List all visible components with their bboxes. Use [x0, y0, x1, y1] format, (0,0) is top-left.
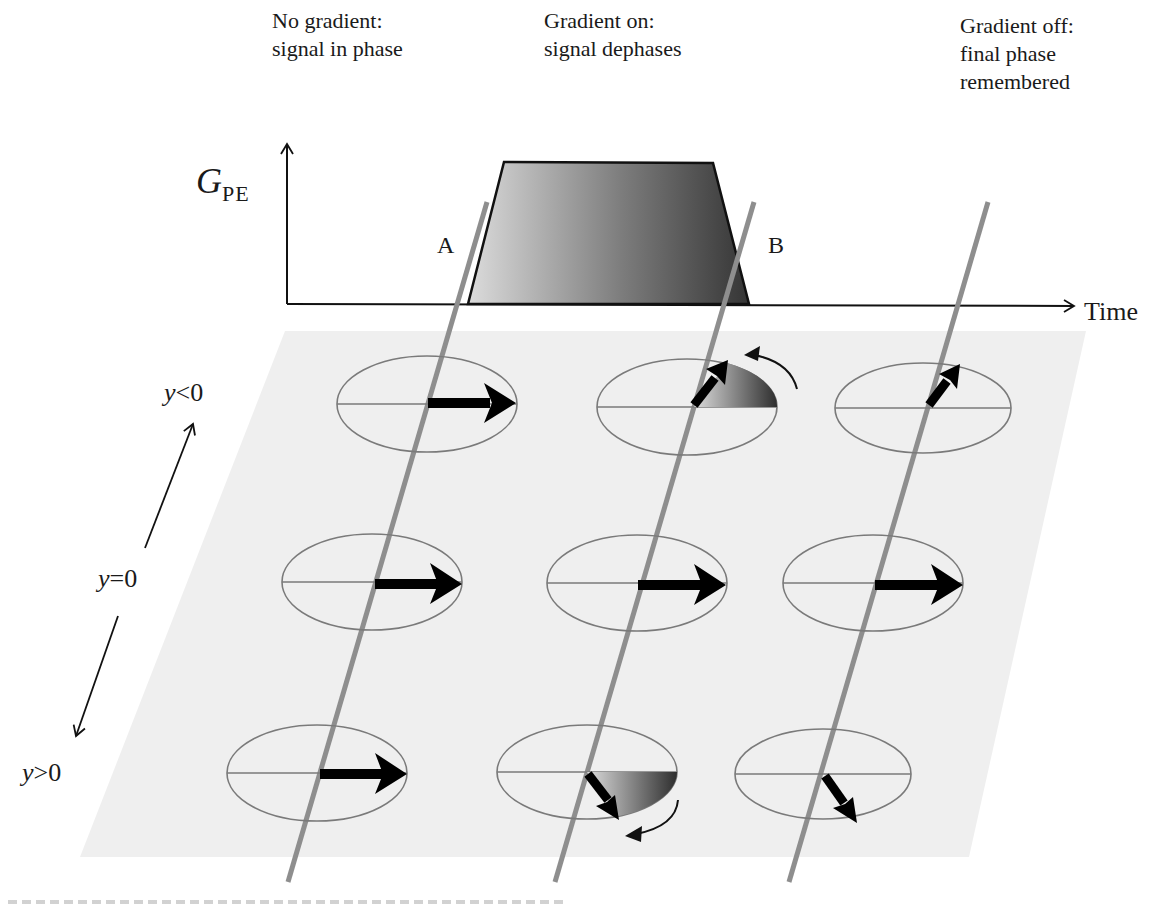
label-no-gradient-line2: signal in phase	[272, 35, 403, 63]
point-a-label: A	[437, 232, 454, 259]
y-var: y	[22, 758, 34, 787]
y-relation: <0	[176, 378, 204, 407]
gradient-axis-label-main: G	[196, 161, 222, 201]
label-no-gradient-line1: No gradient:	[272, 7, 403, 35]
label-gradient-off-line1: Gradient off:	[960, 12, 1074, 40]
time-axis-label: Time	[1084, 297, 1138, 327]
label-y-greater-than-zero: y>0	[22, 758, 61, 788]
y-var: y	[164, 378, 176, 407]
point-b-label: B	[768, 232, 784, 259]
label-gradient-off-line2: final phase	[960, 40, 1074, 68]
phase-encoding-diagram: No gradient: signal in phase Gradient on…	[0, 0, 1174, 908]
diagram-canvas	[0, 0, 1174, 908]
y-var: y	[98, 564, 110, 593]
label-gradient-on-line2: signal dephases	[544, 35, 681, 63]
y-relation: >0	[34, 758, 62, 787]
label-gradient-off: Gradient off: final phase remembered	[960, 12, 1074, 96]
label-gradient-on: Gradient on: signal dephases	[544, 7, 681, 63]
label-gradient-on-line1: Gradient on:	[544, 7, 681, 35]
label-y-less-than-zero: y<0	[164, 378, 203, 408]
gradient-axis-label-sub: PE	[222, 181, 250, 206]
label-gradient-off-line3: remembered	[960, 68, 1074, 96]
figure-caption-clipped	[0, 898, 1174, 908]
gradient-pulse	[468, 162, 749, 304]
label-no-gradient: No gradient: signal in phase	[272, 7, 403, 63]
gradient-axis-label: GPE	[196, 160, 250, 207]
label-y-equals-zero: y=0	[98, 564, 137, 594]
y-relation: =0	[110, 564, 138, 593]
caption-remnant	[8, 900, 568, 904]
